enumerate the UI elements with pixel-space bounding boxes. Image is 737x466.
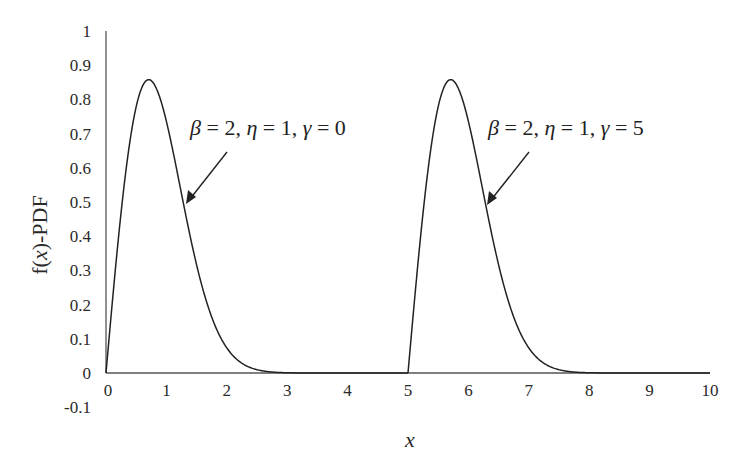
y-tick-labels: 10.90.80.70.60.50.40.30.20.10-0.1 (64, 22, 91, 417)
y-tick-label: 1 (83, 22, 92, 41)
x-tick-label: 7 (525, 381, 534, 400)
annotation-arrow-gamma-5 (491, 152, 529, 200)
y-tick-label: 0.7 (70, 125, 92, 144)
y-tick-label: 0 (83, 364, 92, 383)
x-tick-label: 8 (585, 381, 594, 400)
y-tick-label: 0.9 (70, 56, 91, 75)
y-tick-label: 0.3 (70, 261, 91, 280)
y-tick-label: 0.5 (70, 193, 91, 212)
x-tick-labels: 012345678910 (104, 381, 719, 400)
y-axis-title: f(x)-PDF (27, 195, 52, 274)
x-axis-title: x (404, 427, 415, 452)
x-tick-label: 5 (404, 381, 413, 400)
annotation-arrow-gamma-0 (190, 152, 227, 199)
annotation-gamma-5: β = 2, η = 1, γ = 5 (487, 115, 644, 140)
x-tick-label: 9 (645, 381, 654, 400)
y-tick-label: 0.4 (70, 227, 92, 246)
arrowhead-icon (186, 190, 196, 204)
y-tick-label: 0.6 (70, 159, 91, 178)
y-tick-label: 0.2 (70, 296, 91, 315)
x-tick-label: 6 (464, 381, 473, 400)
y-tick-label: 0.1 (70, 330, 91, 349)
weibull-pdf-chart: 10.90.80.70.60.50.40.30.20.10-0.1 012345… (0, 0, 737, 466)
annotation-gamma-0: β = 2, η = 1, γ = 0 (189, 115, 346, 140)
x-tick-label: 3 (283, 381, 292, 400)
x-tick-label: 4 (343, 381, 352, 400)
x-tick-label: 10 (702, 381, 719, 400)
arrowhead-icon (487, 191, 497, 205)
x-tick-label: 1 (162, 381, 171, 400)
y-tick-label: 0.8 (70, 90, 91, 109)
x-tick-label: 2 (223, 381, 232, 400)
x-tick-label: 0 (104, 381, 113, 400)
y-tick-label: -0.1 (64, 398, 91, 417)
